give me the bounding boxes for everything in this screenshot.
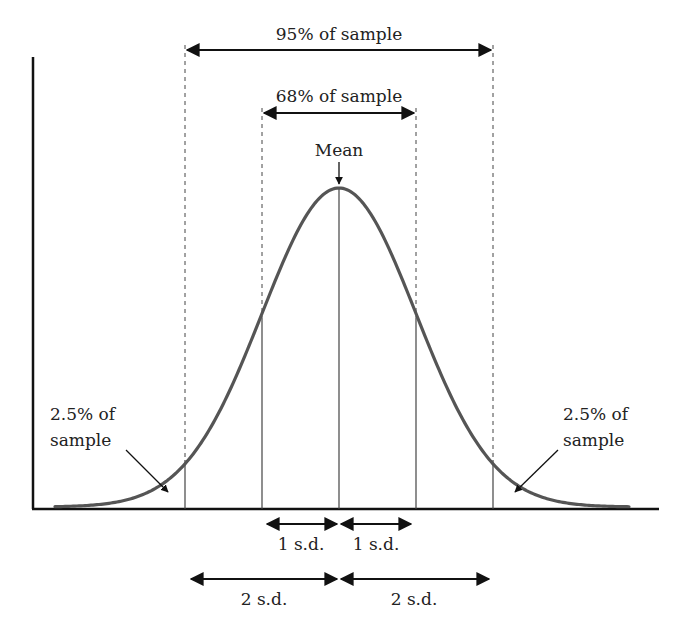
range-68-label: 68% of sample xyxy=(276,86,402,106)
left-tail-label-line1: 2.5% of xyxy=(50,404,117,424)
right-tail-pointer-arrow xyxy=(515,450,558,492)
left-tail-pointer-arrow xyxy=(126,450,168,492)
normal-distribution-diagram: 95% of sample 68% of sample Mean 2.5% of… xyxy=(0,0,689,638)
sd1-right-label: 1 s.d. xyxy=(353,534,400,554)
bell-curve xyxy=(55,188,629,507)
sd2-left-label: 2 s.d. xyxy=(241,589,288,609)
range-95-label: 95% of sample xyxy=(276,24,402,44)
sd2-right-label: 2 s.d. xyxy=(391,589,438,609)
left-tail-label-line2: sample xyxy=(50,430,111,450)
sd1-left-label: 1 s.d. xyxy=(278,534,325,554)
right-tail-label-line2: sample xyxy=(563,430,624,450)
right-tail-label-line1: 2.5% of xyxy=(563,404,630,424)
mean-label: Mean xyxy=(315,140,364,160)
